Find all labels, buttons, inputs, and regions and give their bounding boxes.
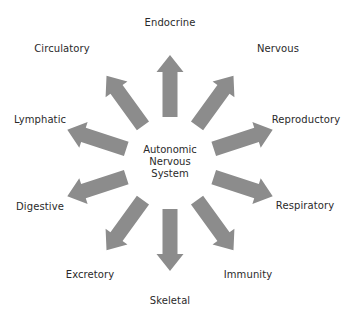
system-label-digestive: Digestive — [16, 201, 64, 212]
center-label-line-1: Autonomic — [143, 144, 197, 156]
center-label-line-3: System — [143, 168, 197, 180]
system-label-skeletal: Skeletal — [150, 295, 191, 306]
ans-diagram: Autonomic Nervous System EndocrineNervou… — [0, 0, 343, 321]
system-label-circulatory: Circulatory — [34, 43, 90, 54]
system-label-endocrine: Endocrine — [145, 17, 196, 28]
arrow-icon — [63, 164, 130, 209]
arrow-icon — [63, 117, 130, 162]
center-label: Autonomic Nervous System — [143, 144, 197, 180]
system-label-respiratory: Respiratory — [276, 200, 334, 211]
arrow-icon — [96, 192, 154, 258]
arrow-icon — [157, 55, 184, 117]
arrow-icon — [157, 209, 184, 271]
system-label-excretory: Excretory — [66, 269, 115, 280]
system-label-lymphatic: Lymphatic — [14, 114, 66, 125]
arrow-icon — [186, 192, 244, 258]
arrow-icon — [210, 164, 277, 209]
system-label-nervous: Nervous — [257, 43, 299, 54]
system-label-reproductory: Reproductory — [272, 114, 340, 125]
center-label-line-2: Nervous — [143, 156, 197, 168]
arrow-icon — [210, 117, 277, 162]
arrow-icon — [186, 68, 244, 134]
system-label-immunity: Immunity — [224, 269, 273, 280]
arrow-icon — [96, 68, 154, 134]
